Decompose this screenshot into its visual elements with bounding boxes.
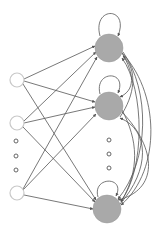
hidden-node [95,34,123,62]
ellipsis-dot [14,139,18,143]
connection-edges [23,14,151,210]
ellipsis-dot [107,138,111,142]
ellipsis-dot [107,166,111,170]
rnn-diagram [0,0,168,234]
hidden-node [95,92,123,120]
input-layer [10,73,24,200]
input-node [10,186,24,200]
input-node [10,116,24,130]
hidden-node [93,195,121,223]
input-node [10,73,24,87]
ellipsis-dot [107,152,111,156]
ellipsis-dot [14,154,18,158]
ellipsis-dot [14,168,18,172]
